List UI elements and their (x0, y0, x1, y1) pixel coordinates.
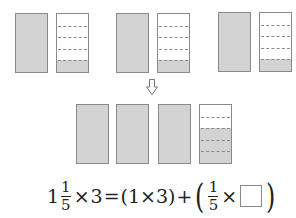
dashed-divider (201, 128, 230, 129)
top-fifth-rect-3 (259, 12, 292, 72)
bottom-rect-4 (199, 104, 232, 164)
down-arrow-icon (146, 79, 158, 95)
dashed-divider (58, 37, 87, 38)
shaded-segment (200, 128, 231, 140)
dashed-divider (58, 49, 87, 50)
dashed-divider (201, 140, 230, 141)
dashed-divider (201, 151, 230, 152)
dashed-divider (58, 60, 87, 61)
multiplier: 3 (91, 185, 103, 207)
top-whole-rect-2 (116, 13, 149, 73)
close-paren: ) (266, 179, 275, 213)
top-whole-rect-3 (218, 12, 251, 72)
dashed-divider (261, 48, 290, 49)
dashed-divider (58, 26, 87, 27)
shaded-segment (260, 59, 291, 71)
whole-number: 1 (47, 185, 59, 207)
dashed-divider (261, 59, 290, 60)
dashed-divider (201, 117, 230, 118)
answer-blank-box[interactable] (240, 185, 262, 207)
dashed-divider (261, 36, 290, 37)
fraction-one-fifth: 1 5 (60, 180, 72, 213)
plus-sign: + (177, 185, 193, 207)
dashed-divider (159, 37, 188, 38)
dashed-divider (159, 60, 188, 61)
shaded-segment (200, 151, 231, 163)
equation: 1 1 5 × 3 = (1×3) + ( 1 5 × ) (47, 178, 277, 214)
dashed-divider (159, 49, 188, 50)
times-sign-2: × (221, 185, 237, 207)
equals-sign: = (104, 185, 120, 207)
shaded-segment (158, 60, 189, 72)
dashed-divider (261, 25, 290, 26)
group-one-times-three: (1×3) (121, 185, 176, 207)
bottom-rect-3 (158, 104, 191, 164)
top-fifth-rect-1 (56, 13, 89, 73)
top-fifth-rect-2 (157, 13, 190, 73)
open-paren: ( (195, 179, 204, 213)
bottom-rect-2 (116, 104, 149, 164)
fraction-one-fifth-2: 1 5 (208, 180, 220, 213)
shaded-segment (57, 60, 88, 72)
bottom-rect-1 (76, 104, 109, 164)
dashed-divider (159, 26, 188, 27)
times-sign: × (74, 185, 90, 207)
shaded-segment (200, 140, 231, 152)
top-whole-rect-1 (15, 13, 48, 73)
